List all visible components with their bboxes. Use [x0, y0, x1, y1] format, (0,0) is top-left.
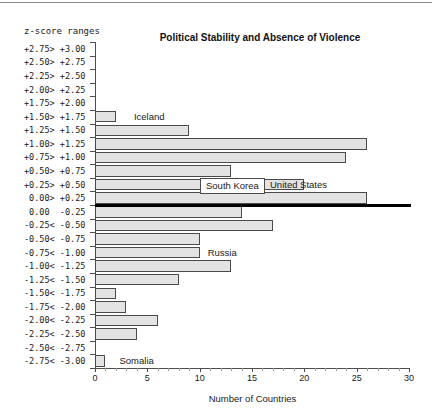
x-axis-tick-minor — [283, 368, 284, 371]
bar — [95, 165, 231, 177]
y-axis-tick-label: 0.00 -0.25 — [24, 207, 85, 217]
y-axis-tick-label: +0.25> +0.50 — [24, 180, 85, 190]
y-axis-title: z-score ranges — [24, 26, 100, 36]
x-axis-tick-minor — [378, 368, 379, 371]
y-axis-tick-label: -1.25< -1.50 — [24, 275, 85, 285]
bar — [95, 233, 200, 245]
x-axis-tick-minor — [158, 368, 159, 371]
x-axis-tick-label: 10 — [195, 373, 205, 383]
chart-title-wrap: Political Stability and Absence of Viole… — [110, 27, 410, 45]
bar — [95, 274, 179, 286]
y-axis-tick-label: -2.75< -3.00 — [24, 356, 85, 366]
y-axis-tick-label: +2.50> +2.75 — [24, 57, 85, 67]
y-axis-tick-label: -0.75< -1.00 — [24, 248, 85, 258]
bar — [95, 355, 105, 367]
x-axis-tick-label: 20 — [299, 373, 309, 383]
bar — [95, 260, 231, 272]
zero-reference-line — [95, 204, 411, 207]
political-stability-bar-chart: Political Stability and Absence of Viole… — [0, 0, 432, 414]
x-axis-tick-minor — [388, 368, 389, 371]
y-axis-tick-label: +1.50> +1.75 — [24, 112, 85, 122]
y-axis-tick-label: +2.00> +2.25 — [24, 85, 85, 95]
bar — [95, 152, 346, 164]
bar — [95, 288, 116, 300]
x-axis-title-wrap: Number of Countries — [95, 388, 410, 406]
x-axis-tick-minor — [137, 368, 138, 371]
y-axis-tick-label: +1.00> +1.25 — [24, 139, 85, 149]
x-axis-tick-minor — [346, 368, 347, 371]
x-axis-tick-minor — [189, 368, 190, 371]
x-axis-tick-minor — [336, 368, 337, 371]
x-axis-tick-major — [304, 368, 305, 372]
x-axis-tick-label: 15 — [247, 373, 257, 383]
annotation-united-states: United States — [270, 179, 327, 190]
x-axis-tick-major — [409, 368, 410, 372]
x-axis-tick-minor — [325, 368, 326, 371]
bar — [95, 192, 367, 204]
y-axis-tick-label: -1.75< -2.00 — [24, 302, 85, 312]
x-axis-tick-major — [147, 368, 148, 372]
y-axis-tick-label: +2.25> +2.50 — [24, 71, 85, 81]
x-axis-tick-minor — [315, 368, 316, 371]
bar — [95, 111, 116, 123]
x-axis-tick-minor — [210, 368, 211, 371]
x-axis-tick-minor — [242, 368, 243, 371]
y-axis-tick-label: -2.50< -2.75 — [24, 343, 85, 353]
bar — [95, 301, 126, 313]
x-axis-tick-major — [200, 368, 201, 372]
x-axis-tick-minor — [179, 368, 180, 371]
x-axis-tick-label: 30 — [404, 373, 414, 383]
x-axis-tick-minor — [262, 368, 263, 371]
x-axis-tick-label: 0 — [92, 373, 97, 383]
x-axis-tick-label: 5 — [145, 373, 150, 383]
x-axis-tick-major — [252, 368, 253, 372]
y-axis-tick-label: -2.25< -2.50 — [24, 329, 85, 339]
x-axis-title: Number of Countries — [209, 393, 297, 404]
annotation-south-korea: South Korea — [200, 178, 265, 194]
bar — [95, 220, 273, 232]
y-axis-tick-label: -0.25< -0.50 — [24, 220, 85, 230]
y-axis-tick-label: +2.75> +3.00 — [24, 44, 85, 54]
y-axis-tick-label: +1.75> +2.00 — [24, 98, 85, 108]
x-axis-tick-minor — [273, 368, 274, 371]
y-axis-tick-label: +0.75> +1.00 — [24, 152, 85, 162]
bar — [95, 247, 200, 259]
x-axis-tick-minor — [116, 368, 117, 371]
annotation-somalia: Somalia — [119, 355, 153, 366]
x-axis-tick-minor — [231, 368, 232, 371]
x-axis-tick-minor — [399, 368, 400, 371]
y-axis-tick-label: -0.50< -0.75 — [24, 234, 85, 244]
y-axis-tick-label: -1.00< -1.25 — [24, 261, 85, 271]
annotation-iceland: Iceland — [134, 111, 165, 122]
y-axis-tick-label: +1.25> +1.50 — [24, 125, 85, 135]
chart-title: Political Stability and Absence of Viole… — [160, 32, 361, 43]
x-axis-tick-minor — [105, 368, 106, 371]
bar — [95, 138, 367, 150]
y-axis-tick-label: -1.50< -1.75 — [24, 288, 85, 298]
y-axis-tick-label: 0.00> +0.25 — [24, 193, 85, 203]
bar — [95, 315, 158, 327]
x-axis-tick-minor — [126, 368, 127, 371]
y-axis-tick-label: +0.50> +0.75 — [24, 166, 85, 176]
x-axis-tick-major — [357, 368, 358, 372]
x-axis-tick-minor — [168, 368, 169, 371]
x-axis-tick-minor — [221, 368, 222, 371]
x-axis-tick-major — [95, 368, 96, 372]
bar — [95, 125, 189, 137]
bar — [95, 328, 137, 340]
x-axis-tick-minor — [294, 368, 295, 371]
x-axis-tick-label: 25 — [352, 373, 362, 383]
annotation-russia: Russia — [208, 247, 237, 258]
x-axis-tick-minor — [367, 368, 368, 371]
bar — [95, 206, 242, 218]
y-axis-tick-label: -2.00< -2.25 — [24, 315, 85, 325]
